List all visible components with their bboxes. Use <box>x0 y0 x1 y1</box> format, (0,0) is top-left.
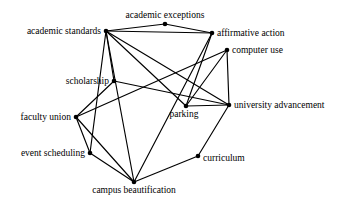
node-label-academic-standards: academic standards <box>27 26 101 36</box>
graph-edge <box>165 24 212 33</box>
graph-node-parking[interactable] <box>184 104 189 109</box>
node-label-faculty-union: faculty union <box>21 112 71 122</box>
node-label-parking: parking <box>169 109 198 119</box>
graph-node-curriculum[interactable] <box>196 154 201 159</box>
graph-node-academic-standards[interactable] <box>104 29 109 34</box>
graph-node-event-scheduling[interactable] <box>88 151 93 156</box>
graph-edge <box>186 33 212 106</box>
graph-edge <box>106 31 212 33</box>
graph-edge <box>106 31 229 105</box>
graph-node-computer-use[interactable] <box>225 48 230 53</box>
node-label-university-advancement: university advancement <box>234 100 324 110</box>
graph-node-campus-beautification[interactable] <box>132 180 137 185</box>
graph-edge <box>134 156 198 182</box>
network-diagram: academic standardsacademic exceptionsaff… <box>0 0 342 207</box>
node-label-academic-exceptions: academic exceptions <box>126 10 205 20</box>
graph-node-faculty-union[interactable] <box>74 115 79 120</box>
node-label-event-scheduling: event scheduling <box>21 148 85 158</box>
graph-edge <box>186 105 229 106</box>
node-label-curriculum: curriculum <box>203 153 245 163</box>
graph-node-affirmative-action[interactable] <box>210 31 215 36</box>
graph-edge <box>227 50 229 105</box>
graph-node-academic-exceptions[interactable] <box>163 22 168 27</box>
node-label-scholarship: scholarship <box>66 76 109 86</box>
graph-node-university-advancement[interactable] <box>227 103 232 108</box>
graph-node-scholarship[interactable] <box>112 79 117 84</box>
node-label-campus-beautification: campus beautification <box>92 185 176 195</box>
node-label-computer-use: computer use <box>232 45 283 55</box>
graph-edge <box>198 105 229 156</box>
node-label-affirmative-action: affirmative action <box>217 28 285 38</box>
graph-edge <box>106 24 165 31</box>
